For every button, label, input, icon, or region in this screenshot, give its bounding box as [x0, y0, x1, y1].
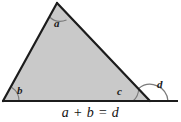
angle-label-a: a [54, 18, 60, 29]
triangle-shape [3, 3, 150, 101]
equation-caption: a + b = d [0, 104, 181, 121]
angle-label-b: b [17, 85, 23, 96]
exterior-angle-triangle-figure: a b c d a + b = d [0, 0, 181, 122]
angle-label-c: c [117, 86, 122, 97]
angle-label-d: d [157, 79, 163, 90]
